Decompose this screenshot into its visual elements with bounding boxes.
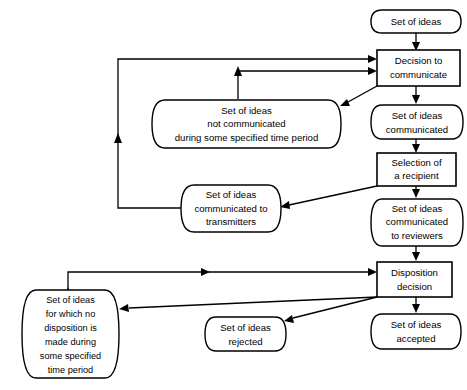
node-label: time period: [48, 365, 93, 375]
edge-disposition-to-accepted: [412, 297, 420, 313]
node-label: accepted: [397, 333, 436, 344]
node-label: during some specified time period: [175, 132, 318, 143]
node-set-of-ideas-rejected[interactable]: Set of ideas rejected: [205, 317, 286, 351]
node-set-of-ideas-not-communicated[interactable]: Set of ideas not communicated during som…: [152, 100, 341, 148]
node-label: communicated: [386, 124, 448, 135]
node-label: Set of ideas: [206, 189, 257, 200]
node-label: communicate: [390, 69, 447, 80]
flowchart-canvas: Set of ideas Decision to communicate Set…: [0, 0, 467, 390]
node-label: Set of ideas: [392, 203, 443, 214]
node-label: Set of ideas: [392, 110, 443, 121]
edge-selection-to-reviewers: [412, 186, 420, 198]
node-label: Disposition: [391, 267, 438, 278]
node-label: disposition is: [44, 323, 97, 333]
node-label: Selection of: [391, 157, 441, 168]
edge-set-of-ideas-to-decision: [412, 33, 420, 51]
edge-disposition-to-no-disposition: [119, 297, 377, 312]
node-label: for which no: [46, 309, 96, 319]
node-set-of-ideas-communicated-to-transmitters[interactable]: Set of ideas communicated to transmitter…: [181, 185, 281, 232]
node-label: a recipient: [394, 170, 439, 181]
edge-decision-to-not-communicated: [340, 86, 377, 106]
edge-decision-to-communicated: [412, 86, 420, 104]
node-label: Set of ideas: [391, 319, 442, 330]
node-label: communicated to: [194, 203, 267, 214]
edge-reviewers-to-disposition: [412, 246, 420, 261]
node-label: decision: [397, 281, 432, 292]
node-label: Set of ideas: [221, 105, 272, 116]
node-label: some specified: [40, 351, 101, 361]
node-label: Set of ideas: [46, 295, 95, 305]
node-label: communicated: [386, 216, 448, 227]
node-set-of-ideas-no-disposition[interactable]: Set of ideas for which no disposition is…: [22, 290, 119, 378]
node-selection-of-a-recipient[interactable]: Selection of a recipient: [377, 153, 456, 186]
node-label: to reviewers: [391, 230, 443, 241]
node-label: Set of ideas: [391, 16, 442, 27]
node-set-of-ideas-accepted[interactable]: Set of ideas accepted: [371, 314, 461, 349]
flowchart-svg: Set of ideas Decision to communicate Set…: [0, 0, 467, 390]
node-label: not communicated: [207, 118, 285, 129]
node-disposition-decision[interactable]: Disposition decision: [377, 262, 452, 297]
node-label: Set of ideas: [220, 322, 271, 333]
edge-not-communicated-to-decision: [234, 66, 377, 99]
node-set-of-ideas[interactable]: Set of ideas: [371, 10, 461, 33]
node-label: made during: [45, 337, 96, 347]
node-set-of-ideas-communicated[interactable]: Set of ideas communicated: [371, 105, 463, 139]
edge-communicated-to-selection: [412, 139, 420, 153]
node-label: transmitters: [206, 216, 256, 227]
node-set-of-ideas-communicated-to-reviewers[interactable]: Set of ideas communicated to reviewers: [371, 199, 463, 246]
node-label: Decision to: [395, 55, 442, 66]
node-decision-to-communicate[interactable]: Decision to communicate: [377, 50, 460, 86]
node-label: rejected: [228, 336, 262, 347]
edge-selection-to-transmitters: [280, 186, 377, 209]
